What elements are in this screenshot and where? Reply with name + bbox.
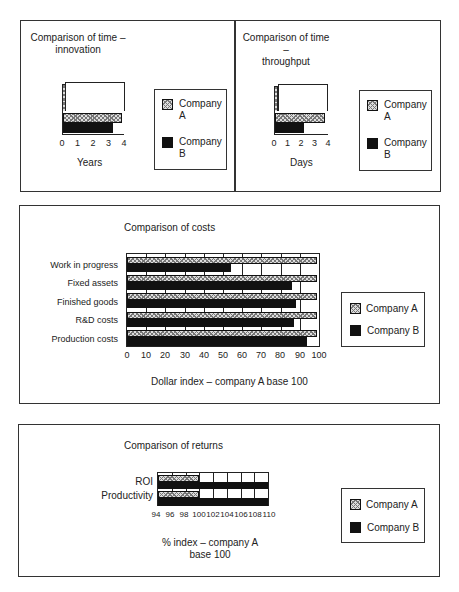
x-tick: 20 bbox=[160, 350, 170, 360]
x-tick: 102 bbox=[206, 510, 219, 519]
innovation-legend: CompanyA CompanyB bbox=[154, 89, 227, 170]
x-tick: 40 bbox=[199, 350, 209, 360]
legend-swatch-company-b bbox=[367, 138, 378, 149]
x-tick: 60 bbox=[237, 350, 247, 360]
x-tick: 0 bbox=[271, 138, 276, 148]
throughput-plot-wall bbox=[278, 84, 328, 111]
returns-bar-productivity-company-b bbox=[158, 498, 268, 506]
legend-swatch-company-a bbox=[162, 99, 173, 110]
category-label: Fixed assets bbox=[67, 278, 118, 288]
costs-title: Comparison of costs bbox=[124, 222, 215, 234]
costs-bar-finished-goods-company-a bbox=[127, 293, 317, 300]
frame-divider bbox=[234, 20, 236, 192]
innovation-bar-company-b bbox=[63, 123, 113, 133]
x-tick: 3 bbox=[312, 138, 317, 148]
category-label: Finished goods bbox=[57, 297, 118, 307]
throughput-title: Comparison of time – throughput bbox=[240, 32, 332, 68]
costs-legend: Company A Company B bbox=[341, 292, 425, 347]
costs-bar-finished-goods-company-b bbox=[127, 300, 296, 308]
legend-swatch-company-a bbox=[350, 303, 361, 314]
innovation-title: Comparison of time – innovation bbox=[28, 32, 128, 56]
x-tick: 10 bbox=[141, 350, 151, 360]
x-tick: 1 bbox=[285, 138, 290, 148]
legend-swatch-company-b bbox=[350, 522, 361, 533]
costs-bar-fixed-assets-company-a bbox=[127, 275, 317, 282]
returns-legend: Company A Company B bbox=[341, 488, 425, 543]
x-tick: 94 bbox=[152, 510, 161, 519]
innovation-xlabel: Years bbox=[77, 157, 102, 168]
category-label: Production costs bbox=[51, 334, 118, 344]
throughput-bar-company-a bbox=[275, 113, 325, 123]
x-tick: 98 bbox=[180, 510, 189, 519]
costs-bar-production-company-a bbox=[127, 330, 317, 337]
legend-label-company-a: Company A bbox=[366, 499, 418, 511]
x-tick: 4 bbox=[121, 138, 126, 148]
costs-bar-wip-company-b bbox=[127, 264, 231, 272]
costs-xlabel: Dollar index – company A base 100 bbox=[151, 376, 308, 387]
x-tick: 106 bbox=[234, 510, 247, 519]
x-tick: 2 bbox=[298, 138, 303, 148]
returns-xlabel: % index – company A base 100 bbox=[160, 537, 260, 561]
costs-bar-wip-company-a bbox=[127, 257, 317, 264]
innovation-plot bbox=[62, 111, 124, 135]
x-tick: 0 bbox=[124, 350, 129, 360]
throughput-bar-company-b bbox=[275, 123, 304, 133]
costs-plot bbox=[126, 253, 320, 347]
costs-bar-rd-company-b bbox=[127, 319, 294, 327]
costs-bar-production-company-b bbox=[127, 337, 307, 346]
category-label: Productivity bbox=[101, 490, 153, 501]
legend-swatch-company-b bbox=[350, 325, 361, 336]
x-tick: 0 bbox=[59, 138, 64, 148]
x-tick: 100 bbox=[311, 350, 326, 360]
x-tick: 80 bbox=[275, 350, 285, 360]
returns-bar-roi-company-a bbox=[158, 475, 199, 482]
category-label: Work in progress bbox=[50, 260, 118, 270]
x-tick: 96 bbox=[166, 510, 175, 519]
x-tick: 50 bbox=[218, 350, 228, 360]
x-tick: 90 bbox=[295, 350, 305, 360]
returns-plot bbox=[157, 472, 269, 506]
x-tick: 4 bbox=[325, 138, 330, 148]
legend-label-company-b: CompanyB bbox=[179, 136, 222, 160]
x-tick: 3 bbox=[106, 138, 111, 148]
x-tick: 30 bbox=[180, 350, 190, 360]
legend-label-company-b: Company B bbox=[367, 522, 419, 534]
category-label: ROI bbox=[135, 476, 153, 487]
legend-label-company-b: Company B bbox=[367, 325, 419, 337]
legend-swatch-company-a bbox=[367, 100, 378, 111]
returns-bar-roi-company-b bbox=[158, 482, 268, 489]
returns-bar-productivity-company-a bbox=[158, 491, 199, 498]
innovation-plot-wall bbox=[65, 82, 125, 111]
costs-bar-rd-company-a bbox=[127, 312, 317, 319]
x-tick: 108 bbox=[248, 510, 261, 519]
x-tick: 104 bbox=[220, 510, 233, 519]
legend-label-company-a: CompanyA bbox=[179, 98, 222, 122]
x-tick: 2 bbox=[90, 138, 95, 148]
legend-swatch-company-a bbox=[350, 499, 361, 510]
x-tick: 110 bbox=[263, 510, 276, 519]
throughput-legend: CompanyA CompanyB bbox=[359, 90, 432, 171]
legend-label-company-b: CompanyB bbox=[384, 137, 427, 161]
innovation-bar-company-a bbox=[63, 113, 122, 123]
legend-label-company-a: Company A bbox=[366, 303, 418, 315]
x-tick: 70 bbox=[256, 350, 266, 360]
x-tick: 1 bbox=[75, 138, 80, 148]
throughput-plot bbox=[274, 111, 328, 135]
x-tick: 100 bbox=[192, 510, 205, 519]
category-label: R&D costs bbox=[75, 315, 118, 325]
returns-title: Comparison of returns bbox=[124, 440, 223, 452]
throughput-xlabel: Days bbox=[290, 157, 313, 168]
legend-label-company-a: CompanyA bbox=[384, 99, 427, 123]
costs-bar-fixed-assets-company-b bbox=[127, 282, 292, 290]
legend-swatch-company-b bbox=[162, 137, 173, 148]
